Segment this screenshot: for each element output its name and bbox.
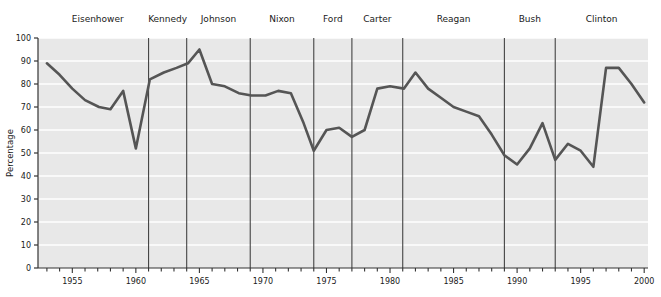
president-label-ford: Ford	[323, 14, 343, 24]
y-tick-label-30: 30	[21, 195, 31, 204]
x-tick-label-2000: 2000	[634, 277, 654, 286]
x-tick-label-1985: 1985	[443, 277, 463, 286]
x-tick-label-1970: 1970	[253, 277, 273, 286]
y-tick-label-90: 90	[21, 57, 31, 66]
president-label-eisenhower: Eisenhower	[72, 14, 124, 24]
president-label-nixon: Nixon	[269, 14, 295, 24]
x-tick-label-1960: 1960	[126, 277, 146, 286]
president-label-bush: Bush	[519, 14, 541, 24]
y-tick-label-20: 20	[21, 218, 31, 227]
y-tick-label-70: 70	[21, 103, 31, 112]
x-tick-label-1975: 1975	[316, 277, 336, 286]
president-label-clinton: Clinton	[586, 14, 618, 24]
x-tick-label-1990: 1990	[507, 277, 527, 286]
line-chart: 0102030405060708090100 19551960196519701…	[0, 0, 661, 297]
y-axis-title-text: Percentage	[5, 129, 15, 177]
x-tick-label-1995: 1995	[570, 277, 590, 286]
president-label-kennedy: Kennedy	[148, 14, 188, 24]
president-label-reagan: Reagan	[437, 14, 471, 24]
x-tick-label-1965: 1965	[189, 277, 209, 286]
y-tick-label-50: 50	[21, 149, 31, 158]
y-tick-label-0: 0	[26, 264, 31, 273]
y-tick-label-40: 40	[21, 172, 31, 181]
x-tick-label-1955: 1955	[62, 277, 82, 286]
y-tick-label-100: 100	[16, 34, 31, 43]
president-label-carter: Carter	[363, 14, 392, 24]
chart-container: 0102030405060708090100 19551960196519701…	[0, 0, 661, 297]
x-tick-label-1980: 1980	[380, 277, 400, 286]
y-tick-label-80: 80	[21, 80, 31, 89]
y-axis-title: Percentage	[5, 129, 15, 177]
y-tick-label-60: 60	[21, 126, 31, 135]
y-tick-label-10: 10	[21, 241, 31, 250]
president-label-johnson: Johnson	[200, 14, 236, 24]
